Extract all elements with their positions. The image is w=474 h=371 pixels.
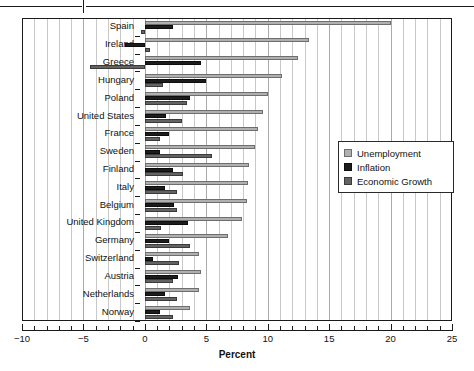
bar-inflation bbox=[145, 114, 166, 118]
x-tick-label: 10 bbox=[262, 333, 273, 344]
bar-inflation bbox=[145, 203, 174, 207]
bar-growth bbox=[145, 83, 163, 87]
x-tick-minor bbox=[255, 326, 256, 331]
x-tick-minor bbox=[108, 326, 109, 331]
x-tick-minor bbox=[133, 326, 134, 331]
bar-growth bbox=[145, 48, 150, 52]
x-tick-minor bbox=[354, 326, 355, 331]
x-tick-minor bbox=[59, 326, 60, 331]
chart-legend: Unemployment Inflation Economic Growth bbox=[338, 141, 454, 193]
bar-group bbox=[22, 303, 452, 321]
bar-inflation bbox=[145, 132, 170, 136]
bar-growth bbox=[145, 190, 177, 194]
bar-growth bbox=[145, 172, 183, 176]
bar-unemployment bbox=[145, 127, 258, 131]
x-axis-label: Percent bbox=[0, 349, 474, 360]
x-tick-major bbox=[83, 324, 84, 331]
bar-inflation bbox=[145, 239, 170, 243]
x-tick-label: −5 bbox=[78, 333, 89, 344]
x-tick-minor bbox=[427, 326, 428, 331]
bar-group bbox=[22, 268, 452, 286]
x-tick-minor bbox=[157, 326, 158, 331]
bar-group bbox=[22, 196, 452, 214]
x-tick-label: 20 bbox=[385, 333, 396, 344]
legend-swatch-inflation bbox=[344, 163, 352, 171]
bar-unemployment bbox=[145, 252, 199, 256]
x-tick-minor bbox=[243, 326, 244, 331]
bar-growth bbox=[145, 244, 190, 248]
bar-growth bbox=[145, 208, 177, 212]
bar-growth bbox=[145, 119, 182, 123]
bar-group bbox=[22, 285, 452, 303]
legend-swatch-economic-growth bbox=[344, 177, 352, 185]
x-tick-label: 15 bbox=[324, 333, 335, 344]
bar-unemployment bbox=[145, 92, 268, 96]
bar-growth bbox=[145, 137, 160, 141]
bar-unemployment bbox=[145, 270, 202, 274]
bar-unemployment bbox=[145, 217, 242, 221]
x-tick-minor bbox=[47, 326, 48, 331]
x-tick-minor bbox=[317, 326, 318, 331]
bar-unemployment bbox=[145, 74, 283, 78]
bar-inflation bbox=[145, 150, 160, 154]
bar-unemployment bbox=[145, 306, 190, 310]
bar-unemployment bbox=[145, 163, 249, 167]
x-tick-major bbox=[206, 324, 207, 331]
x-axis-line bbox=[22, 330, 452, 331]
bar-group bbox=[22, 54, 452, 72]
legend-item-economic-growth: Economic Growth bbox=[344, 174, 448, 188]
x-tick-major bbox=[22, 324, 23, 331]
bar-inflation bbox=[145, 79, 206, 83]
bar-unemployment bbox=[145, 38, 310, 42]
bar-inflation bbox=[145, 168, 173, 172]
bar-inflation bbox=[145, 96, 190, 100]
x-tick-minor bbox=[341, 326, 342, 331]
x-tick-major bbox=[268, 324, 269, 331]
bar-group bbox=[22, 89, 452, 107]
x-tick-minor bbox=[403, 326, 404, 331]
x-tick-minor bbox=[280, 326, 281, 331]
x-tick-minor bbox=[415, 326, 416, 331]
bar-inflation bbox=[145, 310, 160, 314]
bar-group bbox=[22, 250, 452, 268]
x-tick-minor bbox=[182, 326, 183, 331]
x-tick-minor bbox=[96, 326, 97, 331]
x-tick-major bbox=[145, 324, 146, 331]
bar-inflation bbox=[145, 186, 165, 190]
legend-label-inflation: Inflation bbox=[357, 162, 390, 173]
x-tick-minor bbox=[71, 326, 72, 331]
bar-inflation bbox=[145, 25, 173, 29]
bar-growth bbox=[90, 65, 145, 69]
x-tick-minor bbox=[219, 326, 220, 331]
x-tick-label: 0 bbox=[142, 333, 147, 344]
x-tick-minor bbox=[366, 326, 367, 331]
x-tick-minor bbox=[378, 326, 379, 331]
bar-unemployment bbox=[145, 21, 391, 25]
bar-growth bbox=[145, 261, 179, 265]
bar-unemployment bbox=[145, 234, 229, 238]
bar-unemployment bbox=[145, 56, 299, 60]
legend-item-inflation: Inflation bbox=[344, 160, 448, 174]
x-tick-label: 5 bbox=[204, 333, 209, 344]
x-tick-major bbox=[329, 324, 330, 331]
bar-growth bbox=[145, 297, 177, 301]
bar-group bbox=[22, 232, 452, 250]
bar-growth bbox=[145, 315, 173, 319]
bar-group bbox=[22, 36, 452, 54]
bar-chart-figure: SpainIrelandGreeceHungaryPolandUnited St… bbox=[0, 0, 474, 371]
x-tick-minor bbox=[194, 326, 195, 331]
x-tick-minor bbox=[292, 326, 293, 331]
bar-growth bbox=[145, 154, 213, 158]
bar-unemployment bbox=[145, 199, 247, 203]
bar-growth bbox=[145, 101, 187, 105]
bar-unemployment bbox=[145, 181, 248, 185]
x-tick-minor bbox=[440, 326, 441, 331]
bar-growth bbox=[141, 30, 145, 34]
x-tick-major bbox=[452, 324, 453, 331]
bar-inflation bbox=[125, 43, 145, 47]
bar-growth bbox=[145, 226, 161, 230]
x-tick-label: −10 bbox=[14, 333, 30, 344]
legend-swatch-unemployment bbox=[344, 149, 352, 157]
x-tick-minor bbox=[34, 326, 35, 331]
legend-label-economic-growth: Economic Growth bbox=[357, 176, 432, 187]
